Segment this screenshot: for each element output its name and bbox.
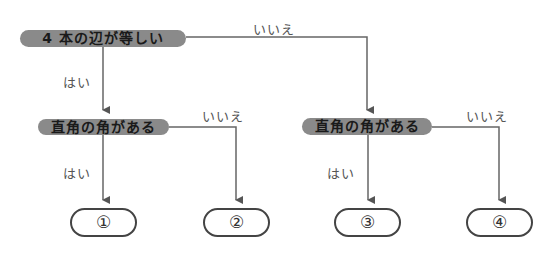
result-2: ② [203,208,270,237]
edge-label-q2l-no: いいえ [202,106,244,125]
result-4: ④ [466,208,533,237]
edge-label-q2r-no: いいえ [466,106,508,125]
decision-right-angle-right: 直角の角がある [302,118,432,135]
decision-four-equal-sides: 4 本の辺が等しい [20,30,186,47]
decision-right-angle-left: 直角の角がある [38,119,169,135]
edge-label-q1-no: いいえ [253,19,295,38]
result-3: ③ [334,208,401,237]
result-1: ① [70,208,137,237]
edge-label-q2l-yes: はい [63,163,91,182]
edge-label-q2r-yes: はい [327,163,355,182]
edge-label-q1-yes: はい [63,72,91,91]
